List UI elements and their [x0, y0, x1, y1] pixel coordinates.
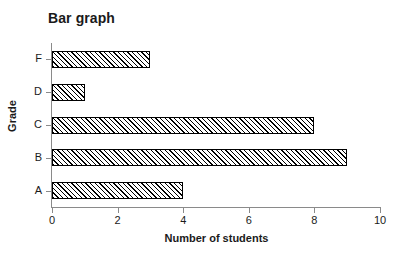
plot-area — [52, 43, 380, 207]
x-axis-tick-label: 6 — [234, 214, 264, 226]
bar-d — [52, 84, 85, 101]
x-axis-tick — [52, 208, 53, 213]
bar-f — [52, 51, 150, 68]
x-axis-line — [52, 207, 381, 208]
x-axis-title: Number of students — [52, 232, 381, 244]
x-axis-tick — [249, 208, 250, 213]
chart-title: Bar graph — [48, 10, 115, 26]
y-axis-tick-label: F — [2, 52, 42, 64]
x-axis-tick-label: 8 — [299, 214, 329, 226]
x-axis-tick-label: 10 — [365, 214, 395, 226]
bar-chart-figure: Bar graph 0246810 FDCBA Number of studen… — [0, 0, 409, 263]
x-axis-tick-label: 2 — [103, 214, 133, 226]
x-axis-tick — [183, 208, 184, 213]
y-axis-tick-label: A — [2, 184, 42, 196]
bar-c — [52, 117, 314, 134]
bar-b — [52, 149, 347, 166]
x-axis-tick-label: 4 — [168, 214, 198, 226]
x-axis-tick — [118, 208, 119, 213]
y-axis-tick-label: B — [2, 151, 42, 163]
y-axis-title: Grade — [6, 91, 18, 141]
bar-a — [52, 182, 183, 199]
x-axis-tick — [380, 208, 381, 213]
x-axis-tick — [314, 208, 315, 213]
